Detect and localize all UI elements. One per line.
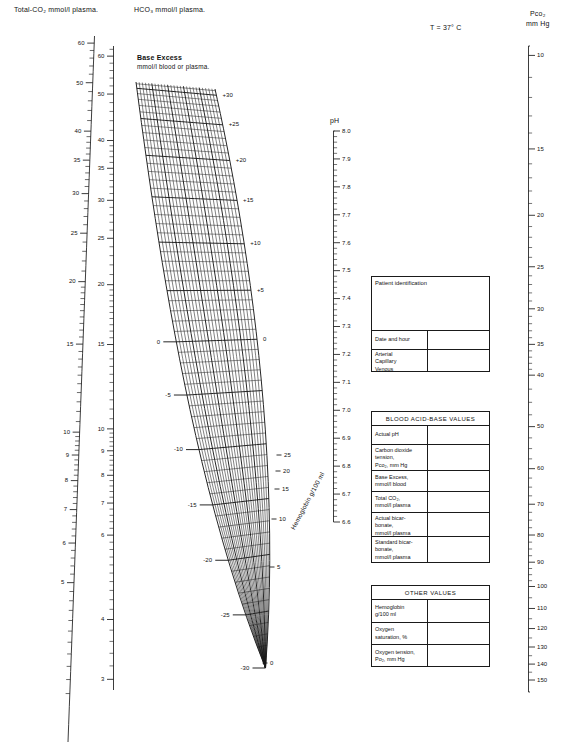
ph-tick-label-7-0: 7.0: [342, 407, 351, 413]
row-actual-bicarbonate-value[interactable]: [428, 513, 489, 536]
base-excess-grid-line--5: [187, 391, 262, 395]
date-and-hour-row[interactable]: Date and hour: [372, 331, 489, 350]
base-excess-grid-line--19: [225, 543, 270, 549]
hemoglobin-grid-line-7: [193, 87, 266, 668]
base-excess-grid-line-27: [139, 105, 220, 112]
base-excess-left-label--25: -25: [221, 612, 230, 618]
base-excess-grid-line-8: [162, 261, 247, 262]
hemoglobin-grid-line-13: [174, 85, 266, 668]
hco3-tick-label-3: 3: [101, 676, 104, 682]
row-hemoglobin[interactable]: Hemoglobin g/100 ml: [372, 600, 489, 623]
pco2-tick-label-25: 25: [537, 264, 544, 270]
pco2-tick-label-140: 140: [537, 661, 547, 667]
pco2-tick-label-50: 50: [537, 423, 544, 429]
blood-acid-base-values-box[interactable]: BLOOD ACID-BASE VALUES Actual pH Carbon …: [371, 411, 490, 563]
ph-tick-label-7-2: 7.2: [342, 351, 351, 357]
base-excess-right-label-30: +30: [222, 92, 232, 98]
row-standard-bicarbonate-label: Standard bicar- bonate, mmol/l plasma: [372, 537, 428, 563]
base-excess-grid-line-24: [142, 125, 224, 131]
base-excess-grid-line--21: [232, 566, 270, 572]
total-co2-tick-label-60: 60: [78, 40, 85, 46]
row-total-co2-value[interactable]: [428, 492, 489, 512]
base-excess-grid-line--9: [196, 433, 265, 439]
row-hemoglobin-value[interactable]: [428, 600, 489, 622]
patient-identification-field[interactable]: Patient identification: [372, 277, 489, 331]
row-base-excess-value[interactable]: [428, 471, 489, 491]
ph-axis-title: pH: [330, 117, 339, 124]
patient-identification-box[interactable]: Patient identification Date and hour Art…: [371, 276, 490, 372]
row-carbon-dioxide-tension[interactable]: Carbon dioxide tension, Pco₂, mm Hg: [372, 445, 489, 471]
base-excess-grid-line--7: [192, 412, 264, 417]
base-excess-grid-line-17: [149, 180, 234, 184]
row-oxygen-saturation-label: Oxygen saturation, %: [372, 623, 428, 644]
base-excess-right-label-20: +20: [236, 157, 246, 163]
pco2-tick-label-80: 80: [537, 532, 544, 538]
base-excess-right-label-15: +15: [243, 197, 253, 203]
total-co2-tick-label-15: 15: [67, 341, 74, 347]
pco2-tick-label-90: 90: [537, 559, 544, 565]
base-excess-grid-line-15: [152, 197, 237, 201]
base-excess-grid-line--29: [261, 657, 266, 658]
base-excess-grid-line-22: [144, 140, 227, 146]
hemoglobin-tick-label-5: 5: [277, 564, 280, 570]
base-excess-grid-line-29: [138, 94, 218, 101]
hco3-axis-title: HCO₃ mmol/l plasma.: [134, 6, 205, 13]
hco3-tick-label-35: 35: [98, 165, 105, 171]
row-oxygen-saturation[interactable]: Oxygen saturation, %: [372, 623, 489, 645]
base-excess-grid-line--10: [199, 444, 266, 450]
pco2-tick-label-35: 35: [537, 341, 544, 347]
total-co2-tick-label-40: 40: [75, 128, 82, 134]
base-excess-grid-line--14: [210, 487, 269, 493]
hco3-tick-label-20: 20: [98, 281, 105, 287]
other-values-box[interactable]: OTHER VALUES Hemoglobin g/100 ml Oxygen …: [371, 585, 490, 667]
hemoglobin-grid-line-0: [215, 89, 270, 668]
row-standard-bicarbonate-value[interactable]: [428, 537, 489, 563]
row-actual-ph-value[interactable]: [428, 426, 489, 444]
base-excess-grid-line-21: [145, 148, 229, 153]
hemoglobin-tick-label-15: 15: [282, 486, 289, 492]
total-co2-axis-title: Total-CO₂ mmol/l plasma.: [14, 6, 98, 13]
row-actual-bicarbonate[interactable]: Actual bicar- bonate, mmol/l plasma: [372, 513, 489, 537]
row-oxygen-tension[interactable]: Oxygen tension, Po₂, mm Hg: [372, 645, 489, 667]
date-and-hour-value[interactable]: [428, 331, 489, 349]
row-carbon-dioxide-tension-value[interactable]: [428, 445, 489, 470]
hemoglobin-grid-line-9: [187, 86, 266, 668]
total-co2-tick-label-30: 30: [72, 190, 79, 196]
date-and-hour-label: Date and hour: [372, 331, 428, 349]
base-excess-grid-line-1: [174, 329, 256, 331]
hco3-tick-label-9: 9: [101, 448, 104, 454]
row-total-co2[interactable]: Total CO₂, mmol/l plasma: [372, 492, 489, 513]
row-oxygen-tension-value[interactable]: [428, 645, 489, 667]
hemoglobin-grid-line-3: [206, 88, 266, 668]
base-excess-grid-line--20: [228, 554, 270, 560]
base-excess-left-label-0: 0: [157, 339, 160, 345]
pco2-tick-label-30: 30: [537, 306, 544, 312]
pco2-tick-label-60: 60: [537, 465, 544, 471]
ph-tick-label-8-0: 8.0: [342, 128, 351, 134]
sample-type-value[interactable]: [428, 350, 489, 372]
row-oxygen-saturation-value[interactable]: [428, 623, 489, 644]
base-excess-grid-line--22: [235, 577, 270, 582]
base-excess-grid-line--2: [180, 360, 259, 363]
row-actual-ph[interactable]: Actual pH: [372, 426, 489, 445]
ph-tick-label-7-7: 7.7: [342, 212, 351, 218]
base-excess-right-label-10: +10: [250, 240, 260, 246]
base-excess-grid-line--28: [257, 645, 267, 647]
base-excess-left-label--30: -30: [241, 665, 250, 671]
base-excess-left-label--5: -5: [165, 392, 171, 398]
base-excess-grid-line--3: [182, 370, 260, 374]
base-excess-grid-line-2: [172, 319, 254, 321]
ph-tick-label-6-7: 6.7: [342, 491, 351, 497]
row-actual-bicarbonate-label: Actual bicar- bonate, mmol/l plasma: [372, 513, 428, 536]
sample-type-row[interactable]: Arterial Capillary Venous: [372, 350, 489, 372]
ph-tick-label-7-4: 7.4: [342, 295, 351, 301]
total-co2-tick-label-9: 9: [66, 452, 69, 458]
row-total-co2-label: Total CO₂, mmol/l plasma: [372, 492, 428, 512]
base-excess-grid-line--24: [242, 600, 269, 604]
total-co2-tick-label-20: 20: [69, 278, 76, 284]
row-oxygen-tension-label: Oxygen tension, Po₂, mm Hg: [372, 645, 428, 667]
hemoglobin-grid-line-24: [139, 82, 265, 668]
row-standard-bicarbonate[interactable]: Standard bicar- bonate, mmol/l plasma: [372, 537, 489, 563]
hemoglobin-tick-label-10: 10: [279, 516, 286, 522]
row-base-excess[interactable]: Base Excess, mmol/l blood: [372, 471, 489, 492]
